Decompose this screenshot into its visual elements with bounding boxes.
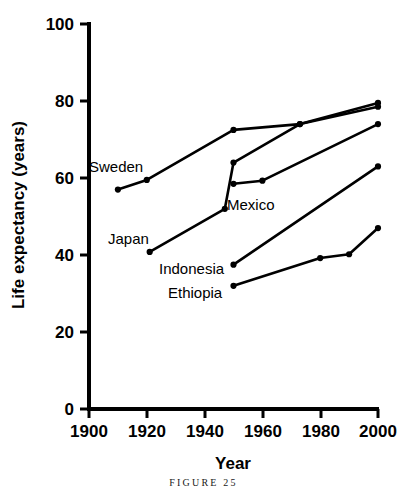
data-point (230, 283, 236, 289)
data-point (147, 249, 153, 255)
x-tick-label-1960: 1960 (244, 422, 282, 441)
x-tick-label-1920: 1920 (128, 422, 166, 441)
series-line (234, 124, 379, 184)
series-mexico (230, 121, 381, 187)
data-point (375, 104, 381, 110)
data-point (230, 181, 236, 187)
label-leader (228, 289, 242, 293)
y-tick-label-20: 20 (55, 323, 74, 342)
data-point (230, 160, 236, 166)
x-tick-label-1980: 1980 (302, 422, 340, 441)
y-tick-label-60: 60 (55, 169, 74, 188)
series-label-ethiopia: Ethiopia (168, 284, 223, 301)
data-point (375, 121, 381, 127)
y-tick-label-0: 0 (65, 400, 74, 419)
x-tick-label-1940: 1940 (186, 422, 224, 441)
data-point (317, 255, 323, 261)
series-ethiopia (230, 225, 381, 289)
y-tick-label-40: 40 (55, 246, 74, 265)
data-point (297, 121, 303, 127)
data-point (346, 251, 352, 257)
data-point (375, 163, 381, 169)
x-tick-label-1900: 1900 (70, 422, 108, 441)
figure-container: 0 20 40 60 80 100 1900 1920 1940 1960 19… (0, 0, 407, 496)
y-tick-label-80: 80 (55, 92, 74, 111)
x-axis-title: Year (215, 454, 251, 473)
series-label-sweden: Sweden (89, 158, 143, 175)
data-point (115, 186, 121, 192)
series-indonesia (230, 163, 381, 267)
series-label-japan: Japan (108, 230, 149, 247)
axis-lines (87, 22, 379, 411)
data-point (230, 127, 236, 133)
data-point (230, 262, 236, 268)
series-label-indonesia: Indonesia (159, 260, 225, 277)
y-tick-label-100: 100 (46, 15, 74, 34)
series-line (234, 228, 379, 286)
figure-caption: FIGURE 25 (0, 477, 407, 488)
series-label-mexico: Mexico (227, 196, 275, 213)
data-point (259, 178, 265, 184)
data-point (375, 225, 381, 231)
x-tick-label-2000: 2000 (359, 422, 397, 441)
y-axis-title: Life expectancy (years) (9, 121, 28, 309)
data-point (144, 177, 150, 183)
line-chart: 0 20 40 60 80 100 1900 1920 1940 1960 19… (0, 0, 407, 496)
